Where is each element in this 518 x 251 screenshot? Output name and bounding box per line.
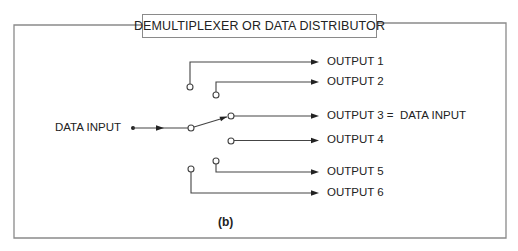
- output-2-label: OUTPUT 2: [327, 76, 384, 88]
- output-4-path: [228, 138, 319, 144]
- output-1-path: [187, 59, 319, 90]
- selector-switch: [188, 117, 227, 132]
- data-input-label: DATA INPUT: [55, 122, 121, 134]
- diagram-title: DEMULTIPLEXER OR DATA DISTRIBUTOR: [142, 14, 377, 38]
- data-input-line: [131, 125, 188, 130]
- output-3-label: OUTPUT 3 = DATA INPUT: [327, 110, 466, 122]
- switch-arm-arrow-icon: [220, 117, 228, 122]
- output-2-path: [213, 79, 319, 98]
- figure-caption: (b): [218, 216, 233, 228]
- output-5-path: [213, 158, 319, 175]
- output-1-label: OUTPUT 1: [327, 56, 384, 68]
- output-5-label: OUTPUT 5: [327, 166, 384, 178]
- output-3-path: [228, 113, 319, 119]
- output-4-label: OUTPUT 4: [327, 134, 384, 146]
- output-6-path: [188, 166, 319, 196]
- input-arrow-icon: [156, 125, 164, 130]
- pivot-terminal: [188, 125, 194, 131]
- output-6-label: OUTPUT 6: [327, 187, 384, 199]
